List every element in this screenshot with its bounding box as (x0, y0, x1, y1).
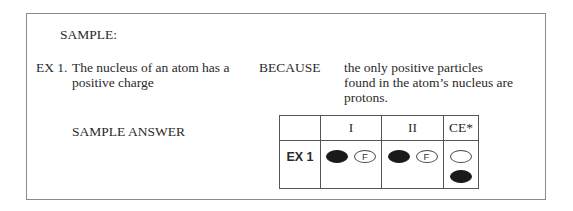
ce-bottom-bubble-filled[interactable] (450, 170, 472, 183)
sample-title: SAMPLE: (60, 27, 117, 42)
header-ii: II (382, 116, 444, 141)
row-label: EX 1 (280, 150, 320, 164)
example-label: EX 1. (36, 60, 68, 75)
header-ce: CE* (444, 116, 479, 141)
ce-top-bubble-empty[interactable] (450, 150, 472, 163)
statement-i: The nucleus of an atom has a positive ch… (72, 60, 229, 90)
statement-line-2: positive charge (72, 75, 229, 90)
statement-ii-false-bubble[interactable]: F (416, 150, 438, 163)
statement-ii: the only positive particles found in the… (344, 60, 513, 105)
reason-line-2: found in the atom’s nucleus are (344, 75, 513, 90)
ce-bubbles (444, 150, 478, 183)
reason-line-1: the only positive particles (344, 60, 513, 75)
answer-grid-header: I II CE* (280, 116, 479, 141)
header-blank (280, 116, 321, 141)
statement-ii-bubbles: F (382, 150, 443, 163)
reason-line-3: protons. (344, 90, 513, 105)
statement-line-1: The nucleus of an atom has a (72, 60, 229, 75)
statement-ii-true-bubble-filled[interactable] (388, 150, 410, 163)
statement-i-true-bubble-filled[interactable] (326, 150, 348, 163)
answer-row: EX 1 F F (280, 141, 479, 189)
statement-i-false-bubble[interactable]: F (354, 150, 376, 163)
statement-i-bubbles: F (321, 150, 381, 163)
sample-answer-label: SAMPLE ANSWER (72, 124, 185, 139)
answer-grid: I II CE* EX 1 F F (279, 115, 479, 189)
because-connector: BECAUSE (259, 60, 321, 75)
header-i: I (321, 116, 382, 141)
